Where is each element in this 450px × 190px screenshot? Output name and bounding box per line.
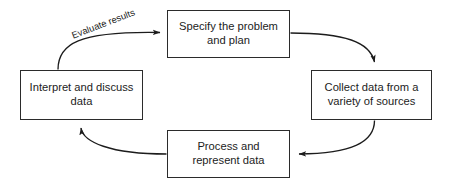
node-collect-data-from-a-variety-of-sources[interactable]: Collect data from a variety of sources <box>311 70 432 120</box>
node-specify-the-problem-and-plan[interactable]: Specify the problem and plan <box>167 10 290 58</box>
arrow-specify-to-collect <box>291 33 375 62</box>
node-label: Collect data from a variety of sources <box>321 81 423 108</box>
node-interpret-and-discuss-data[interactable]: Interpret and discuss data <box>20 70 143 120</box>
diagram-canvas: Specify the problem and plan Collect dat… <box>0 0 450 190</box>
node-label: Specify the problem and plan <box>175 20 282 47</box>
arrow-collect-to-process <box>299 121 375 155</box>
node-process-and-represent-data[interactable]: Process and represent data <box>167 130 290 178</box>
node-label: Interpret and discuss data <box>26 81 138 108</box>
node-label: Process and represent data <box>188 140 268 167</box>
arrow-process-to-interpret <box>81 128 167 154</box>
